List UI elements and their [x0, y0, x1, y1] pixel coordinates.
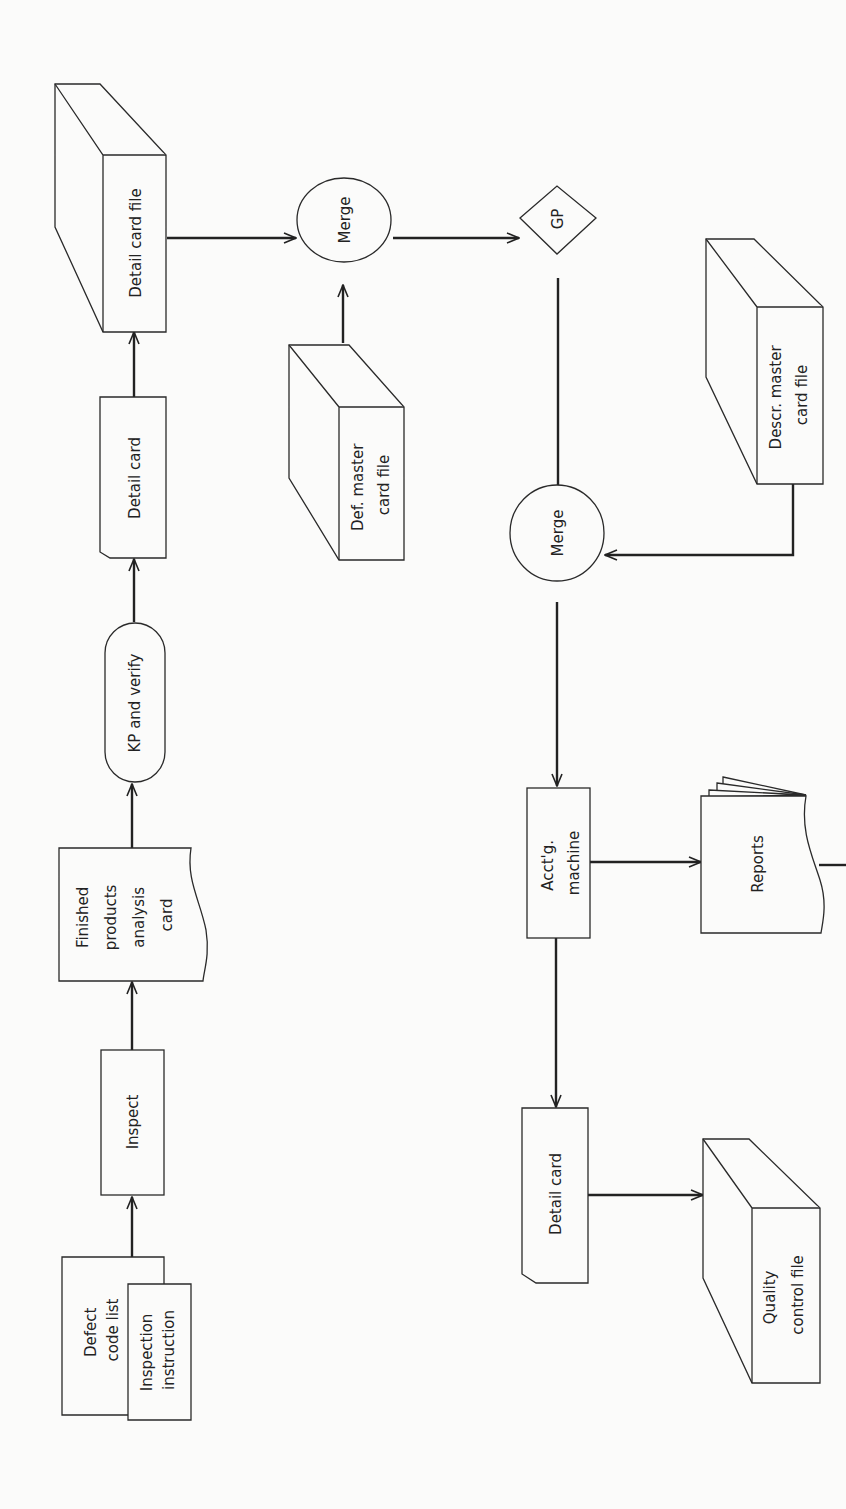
node-kp-and-verify[interactable]: KP and verify — [105, 623, 165, 782]
node-merge-2[interactable]: Merge — [510, 485, 604, 581]
node-def-master-card-file[interactable]: Def. master card file — [289, 345, 404, 560]
node-descr-master-card-file[interactable]: Descr. master card file — [706, 239, 823, 484]
node-finished-products-analysis-card[interactable]: Finished products analysis card — [59, 848, 207, 981]
kp-verify-label: KP and verify — [126, 653, 144, 752]
flowchart-diagram: Defect code list Inspection instruction … — [0, 0, 846, 1509]
node-gp-decision[interactable]: GP — [520, 186, 596, 254]
node-detail-card-2[interactable]: Detail card — [522, 1108, 588, 1283]
detail-card-1-label: Detail card — [126, 437, 144, 519]
node-inspection-instruction[interactable]: Inspection instruction — [128, 1284, 191, 1420]
node-inspect[interactable]: Inspect — [101, 1050, 164, 1195]
gp-label: GP — [549, 209, 567, 230]
reports-label: Reports — [749, 835, 767, 893]
node-merge-1[interactable]: Merge — [297, 178, 391, 262]
detail-card-2-label: Detail card — [547, 1153, 565, 1235]
merge-1-label: Merge — [336, 197, 354, 244]
node-reports[interactable]: Reports — [701, 777, 824, 933]
inspect-label: Inspect — [124, 1095, 142, 1150]
node-detail-card-1[interactable]: Detail card — [100, 397, 166, 558]
node-detail-card-file[interactable]: Detail card file — [55, 84, 166, 332]
merge-2-label: Merge — [549, 510, 567, 557]
edge-descrmaster-to-merge2 — [605, 484, 793, 555]
node-quality-control-file[interactable]: Quality control file — [703, 1139, 820, 1383]
node-acctg-machine[interactable]: Acct'g. machine — [527, 788, 590, 938]
detail-card-file-label: Detail card file — [127, 188, 145, 297]
